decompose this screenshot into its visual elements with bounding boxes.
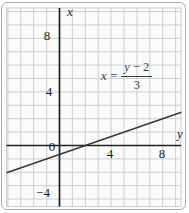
vertical-axis-tick-minus4: −4: [36, 186, 50, 199]
horizontal-axis-tick-4: 4: [107, 147, 114, 160]
horizontal-axis-tick-8: 8: [159, 147, 166, 160]
vertical-axis-label: x: [67, 5, 73, 18]
equation-numerator-variable: y: [124, 61, 130, 74]
graph-canvas: [0, 0, 189, 213]
equation-denominator: 3: [134, 77, 140, 92]
grid-boundary: [7, 8, 182, 207]
equation-relation: =: [111, 70, 118, 82]
vertical-axis-tick-8: 8: [44, 29, 51, 42]
equation-numerator: y − 2: [121, 61, 152, 77]
graph-figure: x y 8 4 −4 0 4 8 x = y − 2 3: [0, 0, 189, 213]
equation-fraction: y − 2 3: [121, 61, 152, 91]
equation-numerator-constant: 2: [143, 61, 149, 74]
equation-label: x = y − 2 3: [101, 61, 152, 91]
horizontal-axis-label: y: [177, 127, 183, 140]
function-line: [7, 112, 182, 173]
equation-lhs: x: [101, 70, 107, 83]
vertical-axis-tick-4: 4: [46, 85, 53, 98]
minus-sign: −: [133, 61, 140, 74]
origin-label: 0: [49, 140, 56, 153]
